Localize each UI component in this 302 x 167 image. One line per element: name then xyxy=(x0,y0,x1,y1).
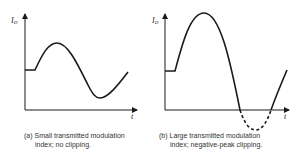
panel-a-y-axis-label: ID xyxy=(11,16,17,25)
panel-a-plot xyxy=(25,14,137,110)
panel-b-plot xyxy=(165,13,289,130)
panel-b-caption-line2: index; negative-peak clipping. xyxy=(159,140,262,149)
panel-b-caption-line1: (b) Large transmitted modulation xyxy=(159,132,260,139)
panel-b-y-axis-label: ID xyxy=(152,16,158,25)
panel-b-clipped-segment xyxy=(240,110,271,130)
panel-b-waveform xyxy=(165,13,240,110)
panel-b-waveform-tail xyxy=(271,70,287,110)
panel-a-caption-line2: index; no clipping. xyxy=(24,140,125,149)
panel-b-caption: (b) Large transmitted modulation index; … xyxy=(159,131,262,149)
panel-a-caption-line1: (a) Small transmitted modulation xyxy=(24,132,125,139)
panel-a-waveform xyxy=(25,43,128,98)
panel-b-x-axis-label: t xyxy=(284,112,286,121)
panel-a-x-axis-label: t xyxy=(131,112,133,121)
panel-a-caption: (a) Small transmitted modulation index; … xyxy=(24,131,125,149)
